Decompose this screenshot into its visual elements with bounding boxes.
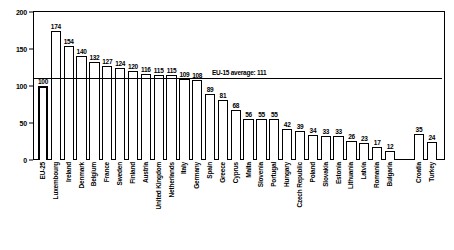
bar-value-label: 100: [38, 78, 48, 85]
bar: [385, 151, 395, 160]
bar-value-label: 81: [220, 92, 227, 99]
bar: [218, 100, 228, 160]
bar-slot: 174: [51, 12, 61, 160]
bar: [51, 31, 61, 160]
bar-slot: 23: [359, 12, 369, 160]
bar-value-label: 68: [232, 102, 239, 109]
category-label: EU-25: [40, 162, 47, 179]
category-label: Luxembourg: [53, 162, 60, 199]
bar-value-label: 140: [77, 48, 87, 55]
bar-value-label: 115: [154, 67, 164, 74]
bar-value-label: 154: [64, 38, 74, 45]
bar: [205, 94, 215, 160]
bar-slot: 116: [141, 12, 151, 160]
bar: [346, 141, 356, 160]
bar-slot: 124: [115, 12, 125, 160]
bar: [414, 134, 424, 160]
category-label: Germany: [194, 162, 201, 189]
bar: [372, 147, 382, 160]
bar: [179, 79, 189, 160]
bar-value-label: 35: [416, 126, 423, 133]
bar: [256, 119, 266, 160]
y-axis-tick-label: 100: [16, 83, 27, 90]
bar-value-label: 42: [284, 121, 291, 128]
bar-slot: 39: [295, 12, 305, 160]
y-axis-tick-label: 200: [16, 9, 27, 16]
category-label: Greece: [220, 162, 227, 183]
bar: [333, 136, 343, 160]
bar: [231, 110, 241, 160]
bar-slot: 127: [102, 12, 112, 160]
category-label: Romania: [374, 162, 381, 188]
bar-slot: 33: [321, 12, 331, 160]
bar-value-label: 26: [348, 133, 355, 140]
bar: [243, 119, 253, 160]
bar-slot: 12: [385, 12, 395, 160]
bar-slot: 24: [427, 12, 437, 160]
category-label: Portugal: [271, 162, 278, 187]
bar-slot: 35: [414, 12, 424, 160]
bar-slot: 132: [89, 12, 99, 160]
bar: [102, 66, 112, 160]
bar-slot: 55: [269, 12, 279, 160]
bar: [427, 142, 437, 160]
eu15-average-line: [34, 78, 442, 79]
category-label: Belgium: [91, 162, 98, 186]
bar-slot: 56: [243, 12, 253, 160]
bar: [192, 80, 202, 160]
category-label: Hungary: [284, 162, 291, 187]
bar-slot: 120: [128, 12, 138, 160]
bar: [282, 129, 292, 160]
category-label: Croatia: [416, 162, 423, 183]
bar-slot: 81: [218, 12, 228, 160]
y-axis-tick-mark: [29, 160, 33, 161]
category-label: Latvia: [361, 162, 368, 180]
bar-value-label: 124: [115, 60, 125, 67]
bar-slot: 42: [282, 12, 292, 160]
bar-chart: 050100150200 100174154140132127124120116…: [0, 0, 454, 250]
bar: [38, 86, 48, 160]
bar-value-label: 33: [322, 128, 329, 135]
bar-value-label: 115: [167, 67, 177, 74]
category-label: Italy: [181, 162, 188, 174]
y-axis: 050100150200: [0, 11, 33, 160]
bar-value-label: 120: [128, 63, 138, 70]
y-axis-tick-label: 150: [16, 46, 27, 53]
category-label: Lithuania: [348, 162, 355, 189]
bar-value-label: 127: [102, 58, 112, 65]
category-label: Poland: [310, 162, 317, 182]
bar-slot: 115: [166, 12, 176, 160]
bar-slot: 26: [346, 12, 356, 160]
bar: [115, 68, 125, 160]
bar-value-label: 132: [89, 54, 99, 61]
bar-value-label: 174: [51, 23, 61, 30]
bar-slot: 34: [308, 12, 318, 160]
bar-slot: 89: [205, 12, 215, 160]
category-label: United Kingdom: [155, 162, 162, 209]
category-label: Sweden: [117, 162, 124, 185]
bar-value-label: 17: [374, 139, 381, 146]
bar: [166, 75, 176, 160]
category-label: Slovakia: [323, 162, 330, 187]
bar: [321, 136, 331, 160]
bar: [154, 75, 164, 160]
y-axis-tick-mark: [29, 123, 33, 124]
bar: [295, 131, 305, 160]
category-label: Czech Republic: [297, 162, 304, 208]
bar-slot: 17: [372, 12, 382, 160]
bar-value-label: 33: [335, 128, 342, 135]
bar-slot: 108: [192, 12, 202, 160]
y-axis-tick-label: 50: [20, 120, 27, 127]
category-label: Netherlands: [168, 162, 175, 197]
bar-value-label: 55: [271, 111, 278, 118]
category-label: Spain: [207, 162, 214, 179]
bar: [64, 46, 74, 160]
bar: [308, 135, 318, 160]
bar: [76, 56, 86, 160]
bar-slot: 140: [76, 12, 86, 160]
bar-value-label: 24: [428, 134, 435, 141]
y-axis-tick-label: 0: [23, 157, 27, 164]
category-label: France: [104, 162, 111, 182]
y-axis-tick-mark: [29, 12, 33, 13]
category-label: Finland: [130, 162, 137, 184]
